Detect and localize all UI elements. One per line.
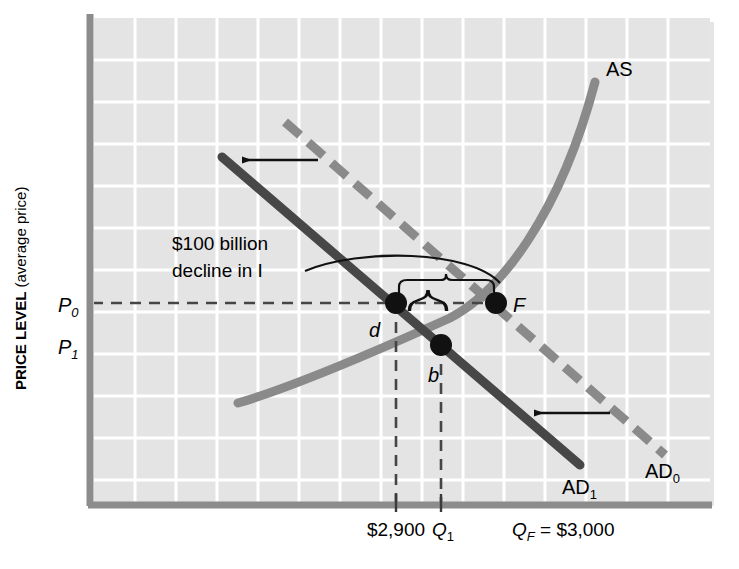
point-F bbox=[485, 292, 507, 314]
point-b bbox=[430, 334, 452, 356]
as-curve-label: AS bbox=[606, 58, 633, 80]
x-tick-label-2900: $2,900 bbox=[367, 519, 425, 540]
decline-annotation-line2: decline in I bbox=[172, 260, 263, 281]
y-axis-title-rest: (average price) bbox=[12, 187, 29, 292]
point-d bbox=[385, 292, 407, 314]
point-label-d: d bbox=[369, 319, 381, 341]
decline-annotation-line1: $100 billion bbox=[172, 233, 268, 254]
point-label-F: F bbox=[513, 294, 527, 316]
ad-as-diagram: PRICE LEVEL (average price) P0 P1 $2,900… bbox=[0, 0, 739, 569]
point-label-b: b bbox=[428, 364, 439, 386]
y-axis-title: PRICE LEVEL (average price) bbox=[12, 187, 29, 390]
y-axis-title-bold: PRICE LEVEL bbox=[12, 292, 29, 390]
